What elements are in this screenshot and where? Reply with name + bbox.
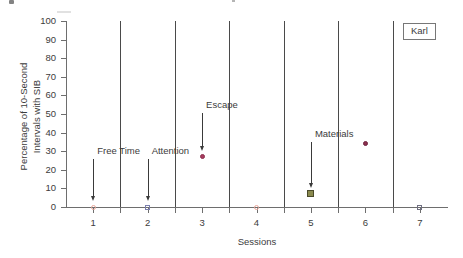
y-axis-title-line-1: Percentage of 10-Second (18, 24, 31, 210)
annotation-arrow-line (202, 113, 203, 146)
annotation-label-free-time: Free Time (97, 146, 140, 156)
data-point-session-2 (145, 205, 150, 210)
phase-divider (120, 21, 121, 207)
y-tick (61, 95, 66, 96)
annotation-arrow-line (148, 159, 149, 196)
figure: 0102030405060708090100 1234567 Free Time… (0, 0, 463, 258)
y-tick (61, 77, 66, 78)
data-point-session-3 (200, 154, 205, 159)
x-tick-label: 5 (301, 218, 321, 228)
y-tick (61, 58, 66, 59)
data-point-session-5 (307, 190, 314, 197)
x-tick (311, 208, 312, 213)
subject-label-box: Karl (403, 23, 436, 40)
y-tick (61, 151, 66, 152)
data-point-session-6 (363, 141, 368, 146)
y-tick (61, 188, 66, 189)
x-tick-minor (175, 208, 176, 213)
x-tick-minor (338, 208, 339, 213)
y-axis-title: Percentage of 10-Second Intervals with S… (18, 24, 43, 210)
x-tick-label: 4 (247, 218, 267, 228)
data-point-session-7 (417, 205, 422, 210)
x-tick-label: 7 (410, 218, 430, 228)
phase-divider (338, 21, 339, 207)
y-tick (61, 114, 66, 115)
x-tick-label: 3 (192, 218, 212, 228)
x-tick (365, 208, 366, 213)
annotation-arrow-head (146, 196, 150, 201)
cropped-glyph-fragment (57, 11, 71, 13)
annotation-arrow-line (93, 159, 94, 196)
y-axis-line (66, 21, 67, 208)
phase-divider (229, 21, 230, 207)
x-tick-label: 6 (355, 218, 375, 228)
phase-divider (393, 21, 394, 207)
x-tick-label: 1 (83, 218, 103, 228)
annotation-arrow-head (91, 196, 95, 201)
y-tick (61, 207, 66, 208)
annotation-label-attention: Attention (152, 146, 190, 156)
phase-divider (175, 21, 176, 207)
y-tick (61, 40, 66, 41)
data-point-session-1 (91, 205, 96, 210)
x-tick-minor (393, 208, 394, 213)
data-point-session-4 (254, 205, 259, 210)
y-tick (61, 170, 66, 171)
cropped-glyph-fragment (9, 0, 14, 4)
x-axis-title: Sessions (66, 236, 448, 247)
cropped-glyph-fragment (232, 0, 235, 2)
y-tick (61, 21, 66, 22)
annotation-arrow-head (200, 146, 204, 151)
x-tick-minor (229, 208, 230, 213)
annotation-label-escape: Escape (206, 100, 238, 110)
x-tick-minor (284, 208, 285, 213)
y-tick (61, 133, 66, 134)
phase-divider (284, 21, 285, 207)
annotation-label-materials: Materials (315, 129, 354, 139)
x-tick (202, 208, 203, 213)
annotation-arrow-line (311, 142, 312, 183)
x-tick-label: 2 (138, 218, 158, 228)
y-axis-title-line-2: Intervals with SIB (30, 24, 43, 210)
x-tick-minor (120, 208, 121, 213)
annotation-arrow-head (309, 183, 313, 188)
